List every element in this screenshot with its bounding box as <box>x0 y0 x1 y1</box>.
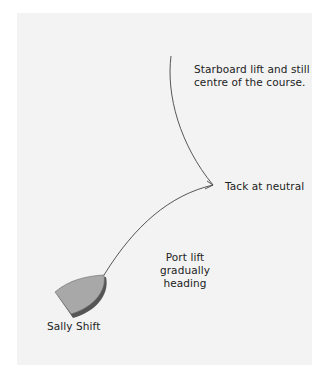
boat-name-label: Sally Shift <box>47 320 100 333</box>
port-lift-label: Port lift gradually heading <box>140 251 230 290</box>
starboard-lift-label: Starboard lift and still centre of the c… <box>194 63 314 89</box>
tack-label: Tack at neutral <box>225 180 304 193</box>
boat-icon <box>55 275 104 314</box>
